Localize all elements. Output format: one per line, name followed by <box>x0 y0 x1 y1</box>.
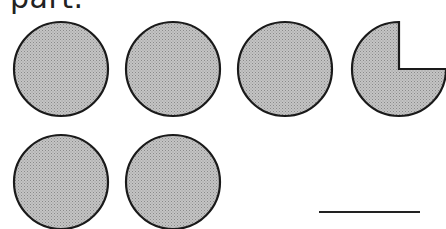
full-circle-1 <box>14 22 108 116</box>
full-circle-5 <box>14 135 108 229</box>
full-circle-6 <box>126 135 220 229</box>
three-quarter-circle <box>352 22 446 116</box>
full-circle-2 <box>126 22 220 116</box>
full-circle-3 <box>238 22 332 116</box>
fraction-circles-figure <box>0 0 446 229</box>
